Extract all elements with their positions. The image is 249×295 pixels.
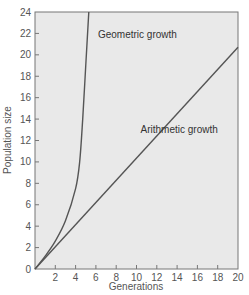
y-tick-label: 14 (20, 114, 32, 125)
arithmetic-growth-label: Arithmetic growth (141, 124, 218, 135)
plot-area (35, 12, 238, 269)
y-tick-label: 18 (20, 71, 32, 82)
y-tick-label: 16 (20, 92, 32, 103)
x-tick-label: 20 (232, 272, 244, 283)
y-tick-label: 10 (20, 156, 32, 167)
y-tick-label: 8 (25, 178, 31, 189)
y-axis-label: Population size (2, 106, 13, 174)
geometric-growth-label: Geometric growth (98, 29, 177, 40)
y-tick-label: 20 (20, 49, 32, 60)
growth-chart: 024681012141618202224 2468101214161820 G… (0, 0, 249, 295)
x-tick-label: 2 (53, 272, 59, 283)
x-tick-label: 14 (172, 272, 184, 283)
y-tick-label: 4 (25, 221, 31, 232)
y-tick-label: 2 (25, 242, 31, 253)
x-tick-label: 18 (212, 272, 224, 283)
y-tick-label: 24 (20, 7, 32, 18)
x-axis-label: Generations (109, 281, 163, 292)
x-tick-label: 16 (192, 272, 204, 283)
y-tick-label: 22 (20, 28, 32, 39)
x-tick-label: 6 (93, 272, 99, 283)
x-tick-label: 4 (73, 272, 79, 283)
y-tick-label: 6 (25, 199, 31, 210)
y-tick-label: 12 (20, 135, 32, 146)
y-tick-label: 0 (25, 264, 31, 275)
